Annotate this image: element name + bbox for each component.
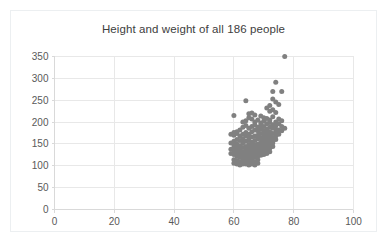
x-tick-label: 0 [52, 216, 58, 227]
x-tick-label: 80 [288, 216, 300, 227]
data-point [231, 113, 236, 118]
y-tick-label: 100 [32, 160, 49, 171]
y-tick-label: 250 [32, 95, 49, 106]
y-tick-label: 350 [32, 51, 49, 62]
y-tick-label: 200 [32, 117, 49, 128]
y-tick-label: 300 [32, 73, 49, 84]
data-point [276, 102, 281, 107]
data-points [228, 54, 287, 167]
data-point [270, 114, 275, 119]
chart-card: Height and weight of all 186 people 0501… [10, 10, 377, 232]
scatter-plot: 050100150200250300350 020406080100 [11, 11, 378, 233]
data-point [231, 161, 236, 166]
data-point [255, 161, 260, 166]
data-point [267, 109, 272, 114]
x-tick-label: 20 [109, 216, 121, 227]
gridlines [55, 57, 354, 210]
x-tick-label: 100 [345, 216, 362, 227]
x-tick-label: 40 [169, 216, 181, 227]
x-tick-label: 60 [228, 216, 240, 227]
x-axis-tick-labels: 020406080100 [52, 216, 363, 227]
axis-lines [55, 57, 354, 210]
y-tick-label: 0 [43, 204, 49, 215]
data-point [270, 144, 275, 149]
data-point [273, 110, 278, 115]
tick-marks [52, 57, 354, 213]
y-tick-label: 50 [37, 182, 49, 193]
y-axis-tick-labels: 050100150200250300350 [32, 51, 49, 215]
data-point [279, 89, 284, 94]
data-point [273, 80, 278, 85]
data-point [270, 89, 275, 94]
data-point [243, 98, 248, 103]
data-point [246, 115, 251, 120]
data-point [252, 113, 257, 118]
data-point [282, 54, 287, 59]
y-tick-label: 150 [32, 138, 49, 149]
